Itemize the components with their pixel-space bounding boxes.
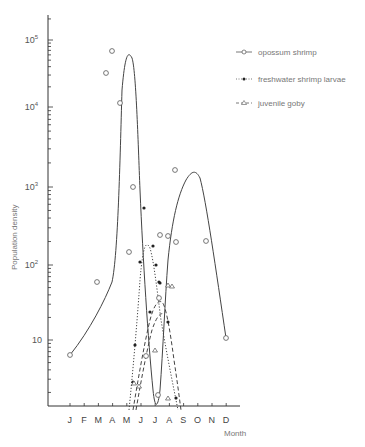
legend-label: juvenile goby: [257, 99, 305, 108]
data-point: [154, 263, 157, 266]
x-axis-month-labels: JFMAMJJASOND: [68, 415, 230, 425]
data-point: [157, 280, 160, 283]
month-label: D: [223, 415, 230, 425]
data-point: [95, 280, 100, 285]
data-point: [110, 49, 115, 54]
data-point: [166, 320, 169, 323]
data-point: [104, 71, 109, 76]
y-tick-label: 102: [25, 259, 39, 270]
data-point: [142, 206, 145, 209]
month-label: F: [81, 415, 87, 425]
data-point: [144, 354, 149, 359]
data-point: [138, 260, 141, 263]
month-label: S: [180, 415, 187, 425]
data-point: [137, 384, 142, 388]
data-point: [158, 233, 163, 238]
data-point: [166, 234, 171, 239]
population-density-chart: 10102103104105 JFMAMJJASOND Month Popula…: [0, 0, 365, 447]
opossum-shrimp-curve: [70, 55, 226, 405]
data-point: [174, 396, 177, 399]
month-label: J: [139, 415, 144, 425]
legend-item-juvenile-goby: juvenile goby: [236, 99, 305, 108]
data-point: [204, 239, 209, 244]
data-point: [224, 336, 229, 341]
month-label: J: [68, 415, 73, 425]
y-tick-label: 104: [25, 101, 39, 112]
month-label: J: [153, 415, 158, 425]
month-label: A: [109, 415, 116, 425]
y-axis-ticks: [48, 19, 53, 392]
data-point: [68, 353, 73, 358]
data-point: [173, 168, 178, 173]
y-tick-label: 10: [32, 335, 42, 345]
data-point: [133, 343, 136, 346]
data-point: [131, 185, 136, 190]
data-point: [127, 250, 132, 255]
legend: opossum shrimp freshwater shrimp larvae …: [236, 48, 346, 108]
y-axis-title: Population density: [10, 205, 19, 270]
legend-item-freshwater-shrimp-larvae: freshwater shrimp larvae: [236, 75, 346, 84]
data-point: [174, 240, 179, 245]
y-axis-labels: 10102103104105: [25, 34, 42, 345]
data-point: [157, 296, 162, 301]
month-label: O: [194, 415, 202, 425]
data-point: [156, 393, 161, 398]
month-label: M: [123, 415, 131, 425]
legend-label: opossum shrimp: [258, 48, 317, 57]
data-point: [166, 396, 171, 400]
month-label: A: [166, 415, 173, 425]
triangle-marker-icon: [242, 101, 247, 105]
y-tick-label: 105: [25, 34, 39, 45]
data-point: [118, 101, 123, 106]
x-axis-title: Month: [224, 429, 246, 438]
circle-marker-icon: [242, 50, 246, 54]
month-label: M: [94, 415, 102, 425]
legend-label: freshwater shrimp larvae: [258, 75, 346, 84]
data-point: [153, 348, 158, 352]
month-label: N: [209, 415, 216, 425]
data-point: [151, 244, 154, 247]
y-tick-label: 103: [25, 181, 39, 192]
data-point: [148, 310, 151, 313]
dot-marker-icon: [243, 78, 246, 81]
legend-item-opossum-shrimp: opossum shrimp: [236, 48, 317, 57]
